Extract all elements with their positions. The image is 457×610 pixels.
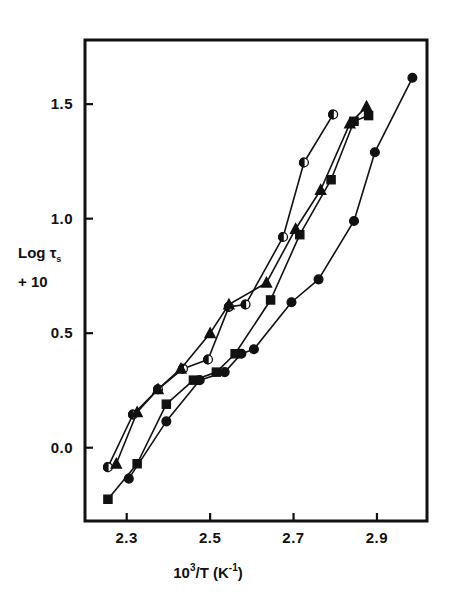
data-point-circle	[124, 474, 133, 483]
data-point-half-circle	[300, 158, 309, 167]
x-tick-label: 2.7	[282, 529, 304, 546]
y-tick-label: 0.5	[51, 324, 73, 341]
y-tick-label: 1.0	[51, 210, 73, 227]
y-axis-title-line2: + 10	[18, 273, 48, 290]
data-point-half-circle	[241, 300, 250, 309]
data-point-circle	[408, 73, 417, 82]
data-point-circle	[220, 368, 229, 377]
data-point-circle	[237, 349, 246, 358]
data-point-circle	[162, 417, 171, 426]
y-tick-label: 1.5	[51, 95, 73, 112]
x-tick-label: 2.3	[116, 529, 138, 546]
data-point-circle	[195, 376, 204, 385]
data-point-square	[350, 117, 358, 125]
chart-figure: 2.32.52.72.9 0.00.51.01.5 103/T (K-1) Lo…	[0, 0, 457, 610]
data-point-square	[104, 495, 112, 503]
data-point-circle	[314, 275, 323, 284]
data-point-square	[296, 231, 304, 239]
data-point-square	[365, 111, 373, 119]
data-point-square	[266, 296, 274, 304]
data-point-half-circle	[329, 110, 338, 119]
data-point-circle	[370, 148, 379, 157]
data-point-circle	[250, 345, 259, 354]
data-point-square	[162, 400, 170, 408]
x-tick-label: 2.9	[366, 529, 388, 546]
data-point-half-circle	[204, 355, 213, 364]
x-tick-label: 2.5	[199, 529, 221, 546]
data-point-circle	[350, 217, 359, 226]
data-point-half-circle	[279, 233, 288, 242]
y-tick-label: 0.0	[51, 439, 73, 456]
arrhenius-plot: 2.32.52.72.9 0.00.51.01.5 103/T (K-1) Lo…	[0, 0, 457, 610]
data-point-square	[327, 176, 335, 184]
data-point-circle	[287, 298, 296, 307]
